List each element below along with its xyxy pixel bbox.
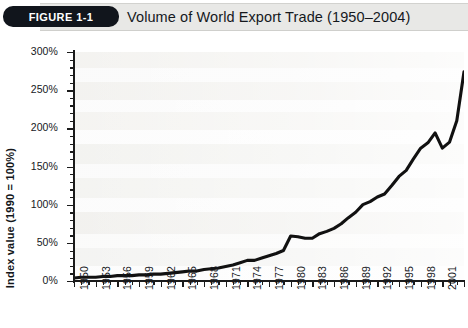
y-tick-label-300: 300% (31, 45, 58, 57)
y-tick-80 (70, 220, 75, 221)
y-tick-230 (70, 105, 75, 106)
y-tick-190 (70, 136, 75, 137)
y-tick-130 (70, 182, 75, 183)
x-tick-1977 (269, 281, 270, 287)
x-tick-label-1998: 1998 (425, 266, 437, 290)
x-tick-label-1995: 1995 (403, 266, 415, 290)
x-tick-label-2001: 2001 (446, 266, 458, 290)
x-tick-1983 (312, 281, 313, 287)
x-tick-label-1992: 1992 (381, 266, 393, 290)
chart-container: 0%50%100%150%200%250%300% 19501953195619… (0, 0, 468, 328)
x-tick-label-1965: 1965 (186, 266, 198, 290)
x-tick-1956 (117, 281, 118, 287)
x-tick-1968 (204, 281, 205, 287)
y-tick-label-200: 200% (31, 121, 58, 133)
data-series-line (74, 52, 464, 281)
y-tick-50 (67, 243, 74, 244)
y-tick-70 (70, 228, 75, 229)
x-tick-1980 (291, 281, 292, 287)
x-tick-1995 (399, 281, 400, 287)
x-tick-label-1956: 1956 (121, 266, 133, 290)
y-tick-240 (70, 98, 75, 99)
y-axis-title: Index value (1990 = 100%) (4, 108, 16, 328)
plot-area (74, 52, 464, 281)
y-tick-220 (70, 113, 75, 114)
x-tick-label-1986: 1986 (338, 266, 350, 290)
x-tick-label-1971: 1971 (230, 266, 242, 290)
y-tick-120 (70, 189, 75, 190)
x-tick-1959 (139, 281, 140, 287)
y-tick-0 (67, 281, 74, 282)
y-tick-140 (70, 174, 75, 175)
y-tick-40 (70, 251, 75, 252)
y-tick-170 (70, 151, 75, 152)
y-tick-270 (70, 75, 75, 76)
y-tick-30 (70, 258, 75, 259)
x-tick-label-1950: 1950 (78, 266, 90, 290)
x-tick-1998 (421, 281, 422, 287)
y-tick-210 (70, 121, 75, 122)
y-tick-200 (67, 128, 74, 129)
x-tick-label-1980: 1980 (295, 266, 307, 290)
y-tick-label-100: 100% (31, 198, 58, 210)
y-tick-280 (70, 67, 75, 68)
y-tick-label-250: 250% (31, 83, 58, 95)
x-tick-label-1959: 1959 (143, 266, 155, 290)
x-tick-1950 (74, 281, 75, 287)
y-tick-20 (70, 266, 75, 267)
x-tick-1992 (377, 281, 378, 287)
x-tick-1971 (226, 281, 227, 287)
x-tick-1965 (182, 281, 183, 287)
y-tick-60 (70, 235, 75, 236)
y-tick-260 (70, 83, 75, 84)
x-tick-label-1974: 1974 (251, 266, 263, 290)
y-tick-10 (70, 273, 75, 274)
x-tick-1986 (334, 281, 335, 287)
x-tick-label-1983: 1983 (316, 266, 328, 290)
y-tick-250 (67, 90, 74, 91)
y-tick-100 (67, 205, 74, 206)
y-tick-90 (70, 212, 75, 213)
y-axis-title-wrapper: Index value (1990 = 100%) (6, 50, 22, 282)
y-tick-110 (70, 197, 75, 198)
y-tick-label-50: 50% (37, 236, 58, 248)
y-tick-label-150: 150% (31, 160, 58, 172)
x-tick-1962 (161, 281, 162, 287)
y-tick-180 (70, 144, 75, 145)
x-tick-2004 (464, 281, 465, 287)
x-tick-1989 (356, 281, 357, 287)
y-tick-150 (67, 167, 74, 168)
x-tick-1953 (96, 281, 97, 287)
x-tick-label-1989: 1989 (360, 266, 372, 290)
y-tick-300 (67, 52, 74, 53)
y-tick-290 (70, 60, 75, 61)
x-tick-label-1953: 1953 (100, 266, 112, 290)
y-tick-label-0: 0% (43, 274, 58, 286)
y-tick-160 (70, 159, 75, 160)
x-tick-label-1968: 1968 (208, 266, 220, 290)
x-tick-label-1977: 1977 (273, 266, 285, 290)
x-tick-label-1962: 1962 (165, 266, 177, 290)
x-tick-2001 (442, 281, 443, 287)
source-note-cropped (0, 322, 468, 328)
x-tick-1974 (247, 281, 248, 287)
